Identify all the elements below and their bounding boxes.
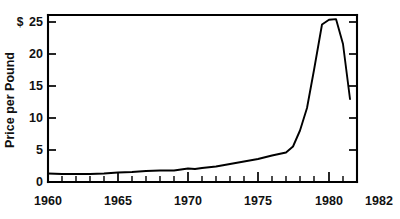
y-label-15: 15 [29, 79, 43, 93]
x-label-1970: 1970 [174, 194, 202, 208]
y-label-25: 25 [29, 15, 43, 29]
x-label-1960: 1960 [34, 194, 62, 208]
x-axis-major-ticks [118, 172, 329, 182]
y-label-20: 20 [29, 47, 43, 61]
y-label-5: 5 [36, 143, 43, 157]
currency-symbol: $ [17, 15, 24, 29]
price-series-line [48, 19, 350, 174]
x-tick-labels: 1960 1965 1970 1975 1980 1982 [34, 194, 393, 208]
chart-figure: 0 5 10 15 20 25 $ 1960 1965 1970 1975 19… [0, 0, 400, 219]
x-label-1980: 1980 [315, 194, 343, 208]
y-label-10: 10 [29, 111, 43, 125]
y-axis-title: Price per Pound [3, 52, 17, 148]
y-tick-labels: 0 5 10 15 20 25 [29, 15, 43, 189]
y-label-0: 0 [36, 175, 43, 189]
y-axis-ticks [48, 22, 357, 182]
x-label-1965: 1965 [104, 194, 132, 208]
x-label-1982: 1982 [365, 194, 393, 208]
x-label-1975: 1975 [244, 194, 272, 208]
plot-frame [48, 15, 357, 182]
line-chart: 0 5 10 15 20 25 $ 1960 1965 1970 1975 19… [0, 0, 400, 219]
